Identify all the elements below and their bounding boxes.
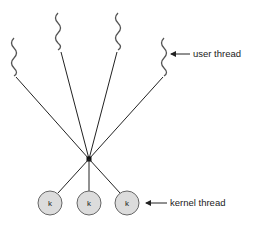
user-thread-wave-4 — [162, 38, 167, 76]
user-thread-wave-3 — [116, 13, 121, 50]
kernel-link-1 — [58, 159, 89, 193]
diagram-svg: k k k user thread kernel thread — [0, 0, 254, 229]
user-thread-wave-2 — [56, 13, 61, 50]
kernel-thread-1: k — [38, 191, 62, 215]
kernel-thread-3: k — [115, 191, 139, 215]
user-thread-label: user thread — [193, 48, 241, 59]
kernel-thread-label: kernel thread — [170, 197, 225, 208]
threading-diagram: k k k user thread kernel thread — [0, 0, 254, 229]
kernel-thread-2: k — [77, 191, 101, 215]
kernel-link-3 — [89, 159, 120, 193]
user-thread-wave-1 — [12, 38, 17, 76]
